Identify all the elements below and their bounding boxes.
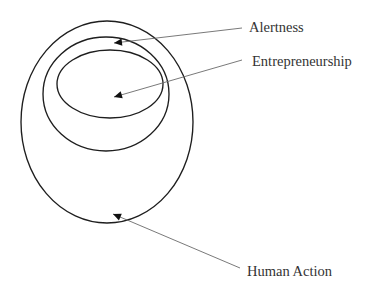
human-action-ellipse [21, 21, 193, 223]
entrepreneurship-arrowhead-icon [114, 91, 123, 98]
entrepreneurship-ellipse [57, 50, 163, 118]
alertness-leader-line [114, 28, 242, 43]
alertness-arrowhead-icon [114, 38, 122, 45]
human-action-leader-line [113, 214, 240, 268]
alertness-label: Alertness [249, 19, 304, 35]
nested-sets-diagram: Human Action Alertness Entrepreneurship [0, 0, 378, 290]
entrepreneurship-label: Entrepreneurship [252, 53, 352, 69]
human-action-label: Human Action [247, 263, 333, 279]
alertness-ellipse [43, 37, 169, 151]
